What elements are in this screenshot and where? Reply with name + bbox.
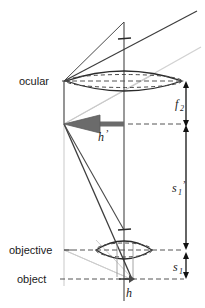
focal-length-subscript: 2 — [180, 104, 184, 113]
dark-ray-image-to-objective — [64, 124, 124, 230]
dark-ray-group — [64, 11, 197, 279]
object-arrow-head — [129, 275, 135, 283]
axis-crossing-tick-upper — [118, 38, 131, 39]
image-distance-symbol: s — [172, 181, 177, 195]
s1prime-dimension-arrow-bottom — [183, 243, 189, 250]
image-height-symbol: h — [98, 130, 104, 144]
focal-length-label: f 2 — [175, 97, 184, 113]
light-ray-image-to-ocular — [64, 73, 156, 124]
object-label: object — [17, 273, 46, 285]
image-height-label: h ’ — [98, 128, 109, 144]
image-height-prime: ’ — [105, 128, 109, 139]
image-arrow-head — [64, 115, 100, 133]
light-ray-object-spread — [64, 250, 133, 280]
image-distance-label: s 1 ’ — [172, 179, 186, 197]
dark-ray-image-to-object — [64, 124, 132, 279]
s1-dimension-arrow-bottom — [183, 272, 189, 279]
f2-dimension-arrow-top — [183, 81, 189, 88]
s1-dimension-arrow-top — [183, 252, 189, 259]
image-arrow — [64, 115, 124, 133]
object-distance-symbol: s — [173, 260, 178, 274]
ocular-label: ocular — [19, 75, 49, 87]
object-distance-subscript: 1 — [179, 267, 183, 276]
axis-crossing-tick-lower — [118, 229, 131, 230]
s1prime-dimension-arrow-top — [183, 125, 189, 132]
ray-diagram-canvas: ocular objective object h ’ h f 2 s 1 ’ … — [0, 0, 205, 308]
objective-label: objective — [9, 244, 52, 256]
optics-diagram: ocular objective object h ’ h f 2 s 1 ’ … — [0, 0, 205, 308]
frame-line-ocular-top — [64, 22, 124, 81]
object-height-label: h — [126, 286, 132, 300]
object-distance-label: s 1 — [173, 260, 183, 276]
